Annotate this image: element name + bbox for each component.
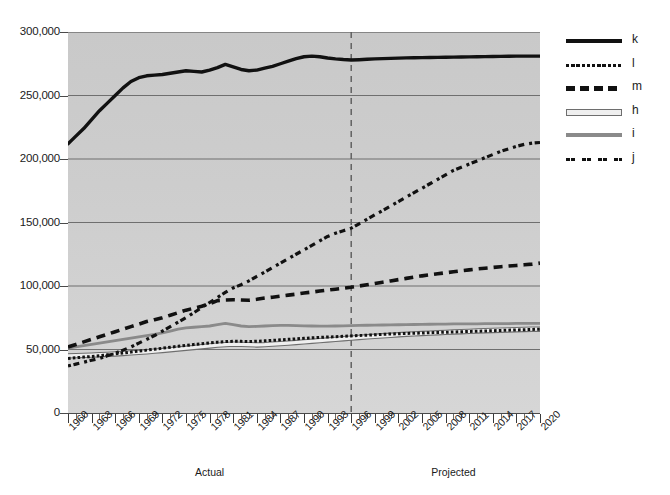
x-axis-tick-label: 2020 xyxy=(538,408,562,432)
legend-label-l: l xyxy=(632,55,635,71)
actual-label: Actual xyxy=(170,466,250,478)
legend-label-j: j xyxy=(632,149,635,165)
legend-item-m[interactable]: m xyxy=(566,77,666,101)
plot-svg xyxy=(68,32,540,413)
legend-item-j[interactable]: j xyxy=(566,148,666,172)
series-line-m xyxy=(68,263,540,347)
legend-label-k: k xyxy=(632,31,638,47)
legend-swatch-m-icon xyxy=(566,86,622,91)
legend-swatch-j-icon xyxy=(566,158,622,162)
legend-item-k[interactable]: k xyxy=(566,30,666,54)
y-axis-tick xyxy=(60,413,68,414)
series-line-k xyxy=(68,56,540,144)
projected-label: Projected xyxy=(413,466,493,478)
legend-item-i[interactable]: i xyxy=(566,124,666,148)
y-axis-tick xyxy=(60,223,68,224)
y-axis: 050,000100,000150,000200,000250,000300,0… xyxy=(0,0,60,495)
legend-swatch-i-icon xyxy=(566,133,622,137)
y-axis-tick-label: 300,000 xyxy=(4,26,60,38)
plot-area xyxy=(68,32,540,413)
y-axis-tick xyxy=(60,286,68,287)
legend-label-m: m xyxy=(632,78,642,94)
legend-label-i: i xyxy=(632,125,635,141)
legend-label-h: h xyxy=(632,102,639,118)
y-axis-tick xyxy=(60,350,68,351)
y-axis-tick-label: 200,000 xyxy=(4,153,60,165)
chart-root: 050,000100,000150,000200,000250,000300,0… xyxy=(0,0,670,495)
legend-item-h[interactable]: h xyxy=(566,101,666,125)
y-axis-tick-label: 100,000 xyxy=(4,280,60,292)
legend-swatch-h-icon xyxy=(566,109,622,116)
y-axis-tick xyxy=(60,159,68,160)
y-axis-tick-label: 150,000 xyxy=(4,217,60,229)
y-axis-tick-label: 50,000 xyxy=(4,344,60,356)
legend-swatch-k-icon xyxy=(566,39,622,43)
y-axis-tick-label: 250,000 xyxy=(4,90,60,102)
y-axis-tick-label: 0 xyxy=(4,407,60,419)
y-axis-tick xyxy=(60,96,68,97)
chart-legend: klmhij xyxy=(566,30,666,171)
legend-swatch-l-icon xyxy=(566,64,622,68)
y-axis-tick xyxy=(60,32,68,33)
legend-item-l[interactable]: l xyxy=(566,54,666,78)
